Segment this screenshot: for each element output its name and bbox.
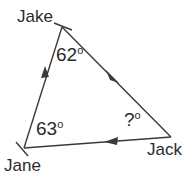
vertex-label-jack: Jack [147, 141, 182, 158]
angle-label-jake: 62o [56, 45, 83, 64]
angle-value-jake: 62 [56, 44, 77, 65]
vertex-label-jake: Jake [17, 8, 53, 25]
vertex-label-jane: Jane [4, 157, 41, 174]
degree-symbol-jake: o [77, 44, 83, 56]
degree-symbol-jack: o [135, 109, 141, 121]
arrowhead-jake-to-jack [106, 70, 119, 83]
vertex-tick-jane [16, 142, 28, 156]
angle-value-jane: 63 [36, 118, 57, 139]
degree-symbol-jane: o [57, 118, 63, 130]
angle-label-jack: ?o [124, 110, 141, 129]
angle-label-jane: 63o [36, 119, 63, 138]
angle-value-jack: ? [124, 109, 135, 130]
triangle-diagram: Jake Jane Jack 62o 63o ?o [0, 0, 186, 180]
arrowhead-jack-to-jane [104, 137, 118, 145]
